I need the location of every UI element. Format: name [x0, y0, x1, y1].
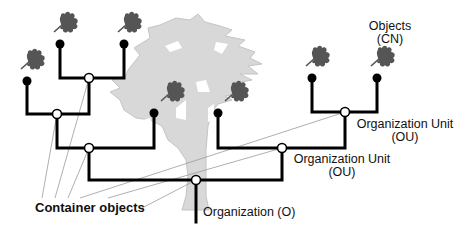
- container-node: [53, 110, 62, 119]
- objects-label: Objects (CN): [360, 20, 420, 46]
- ou-upper-label-line2: (OU): [350, 131, 460, 144]
- container-node: [85, 144, 94, 153]
- leaf-icon: [21, 49, 45, 70]
- ou-lower-label: Organization Unit (OU): [287, 153, 397, 179]
- object-node: [23, 77, 32, 86]
- leaf-icon: [54, 12, 78, 33]
- ou-node-lower: [278, 144, 287, 153]
- ou-node-upper: [341, 108, 350, 117]
- organization-node: [192, 176, 201, 185]
- leaf-icon: [371, 46, 395, 67]
- object-node: [373, 74, 382, 83]
- object-node: [150, 109, 159, 118]
- object-node: [56, 40, 65, 49]
- container-objects-label: Container objects: [35, 201, 145, 214]
- object-node: [308, 74, 317, 83]
- ou-lower-label-line2: (OU): [287, 166, 397, 179]
- object-node: [214, 109, 223, 118]
- objects-label-line2: (CN): [360, 33, 420, 46]
- leaf-icon: [118, 12, 142, 33]
- organization-label: Organization (O): [203, 206, 295, 219]
- ou-upper-label: Organization Unit (OU): [350, 118, 460, 144]
- object-node: [120, 40, 129, 49]
- leaf-icon: [306, 46, 330, 67]
- container-node: [85, 74, 94, 83]
